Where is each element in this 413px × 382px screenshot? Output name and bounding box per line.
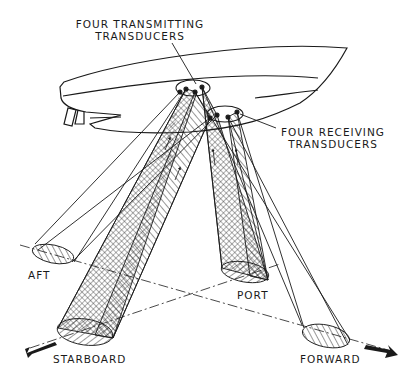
receiving-label-line1: FOUR RECEIVING (278, 126, 388, 138)
forward-label: FORWARD (300, 353, 361, 365)
transmitting-label-line2: TRANSDUCERS (70, 30, 210, 42)
aft-footprint (31, 241, 76, 267)
receiving-label-line2: TRANSDUCERS (278, 138, 388, 150)
receiving-transducers-label: FOUR RECEIVING TRANSDUCERS (278, 126, 388, 150)
port-label: PORT (237, 289, 269, 301)
forward-arrow-icon (364, 345, 398, 358)
diagram-canvas: FOUR TRANSMITTING TRANSDUCERS FOUR RECEI… (0, 0, 413, 382)
transmitting-leader-line (172, 43, 196, 84)
transmitting-label-line1: FOUR TRANSMITTING (70, 18, 210, 30)
doppler-beam-illustration (0, 0, 413, 382)
transmitting-transducers-label: FOUR TRANSMITTING TRANSDUCERS (70, 18, 210, 42)
forward-footprint (300, 320, 352, 351)
aft-label: AFT (28, 269, 50, 281)
starboard-label: STARBOARD (53, 353, 126, 365)
